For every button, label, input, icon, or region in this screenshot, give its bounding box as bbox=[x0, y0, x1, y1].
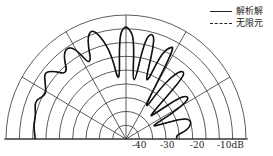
legend-label: 无限元 bbox=[236, 17, 263, 29]
dashed-line-swatch bbox=[210, 23, 232, 24]
radial-tick-label: -10dB bbox=[217, 140, 244, 150]
legend-item-analytical: 解析解 bbox=[210, 5, 263, 17]
legend-item-infinite-element: 无限元 bbox=[210, 17, 263, 29]
radial-tick-label: -20 bbox=[190, 140, 205, 150]
radial-tick-label: -30 bbox=[160, 140, 175, 150]
solid-line-swatch bbox=[210, 11, 232, 12]
legend-label: 解析解 bbox=[236, 5, 263, 17]
polar-grid bbox=[6, 15, 246, 139]
radial-tick-label: -40 bbox=[132, 140, 147, 150]
legend: 解析解 无限元 bbox=[210, 5, 263, 29]
